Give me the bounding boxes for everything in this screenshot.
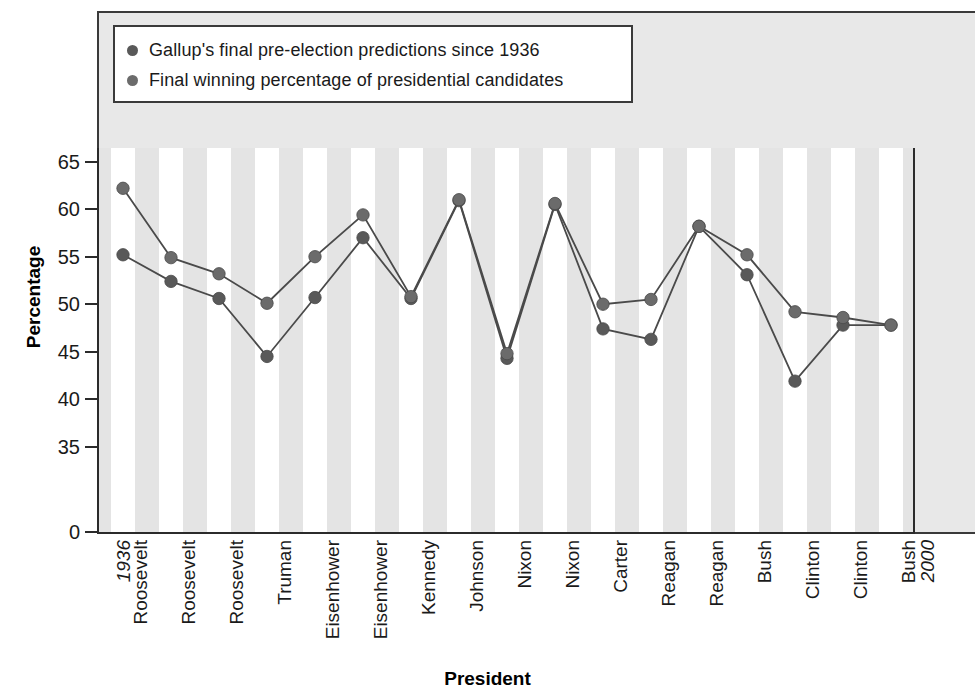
data-point-marker xyxy=(309,291,321,303)
x-axis-tick-label: Reagan xyxy=(706,540,728,607)
x-axis-tick-label: Nixon xyxy=(514,540,536,589)
y-axis-tick-label: 40 xyxy=(28,388,80,411)
data-point-marker xyxy=(501,347,513,359)
data-point-marker xyxy=(213,292,225,304)
legend-label-final-winning-percentage: Final winning percentage of presidential… xyxy=(149,70,563,91)
data-point-marker xyxy=(741,269,753,281)
y-axis-tick xyxy=(85,208,97,210)
data-point-marker xyxy=(789,375,801,387)
data-point-marker xyxy=(453,194,465,206)
x-axis-tick-label: Clinton xyxy=(802,540,824,599)
data-point-marker xyxy=(405,290,417,302)
data-point-marker xyxy=(549,197,561,209)
data-point-marker xyxy=(741,249,753,261)
y-axis-tick-label: 60 xyxy=(28,198,80,221)
x-axis-tick-label: Reagan xyxy=(658,540,680,607)
data-point-marker xyxy=(117,182,129,194)
x-axis-line xyxy=(97,532,915,534)
y-axis-tick xyxy=(85,351,97,353)
x-axis-tick-label: Bush xyxy=(754,540,776,583)
data-point-marker xyxy=(357,232,369,244)
data-point-marker xyxy=(261,297,273,309)
y-axis-tick-label: 0 xyxy=(28,521,80,544)
y-axis-tick xyxy=(85,256,97,258)
legend-item-final-winning-percentage: Final winning percentage of presidential… xyxy=(127,65,619,95)
x-axis-tick-label: Roosevelt xyxy=(226,540,248,625)
data-point-marker xyxy=(597,323,609,335)
data-point-marker xyxy=(165,251,177,263)
data-point-marker xyxy=(885,319,897,331)
data-point-marker xyxy=(309,251,321,263)
x-axis-tick-label: Roosevelt xyxy=(178,540,200,625)
x-axis-title: President xyxy=(0,668,975,690)
data-point-marker xyxy=(693,220,705,232)
data-point-marker xyxy=(645,293,657,305)
y-axis-tick xyxy=(85,531,97,533)
y-axis-tick-label: 65 xyxy=(28,150,80,173)
plot-series-svg xyxy=(99,148,915,532)
data-point-marker xyxy=(261,350,273,362)
data-point-marker xyxy=(597,298,609,310)
y-axis-tick xyxy=(85,398,97,400)
series-line-1 xyxy=(123,188,891,353)
x-axis-tick-label: Roosevelt xyxy=(130,540,152,625)
gallup-prediction-line-chart: Gallup's final pre-election predictions … xyxy=(0,0,975,697)
x-axis-tick-label: Carter xyxy=(610,540,632,593)
data-point-marker xyxy=(789,306,801,318)
plot-area xyxy=(99,148,915,532)
legend-item-gallup-predictions: Gallup's final pre-election predictions … xyxy=(127,35,619,65)
y-axis-tick-label: 35 xyxy=(28,435,80,458)
data-point-marker xyxy=(213,268,225,280)
data-point-marker xyxy=(117,249,129,261)
x-axis-labels: 1936RooseveltRooseveltRooseveltTrumanEis… xyxy=(99,540,915,660)
x-axis-tick-label: Truman xyxy=(274,540,296,605)
x-axis-tick-label: Eisenhower xyxy=(322,540,344,639)
chart-legend: Gallup's final pre-election predictions … xyxy=(113,25,633,103)
x-axis-tick-label: Nixon xyxy=(562,540,584,589)
y-axis-title: Percentage xyxy=(23,237,45,357)
x-axis-tick-label: Clinton xyxy=(850,540,872,599)
y-axis-tick xyxy=(85,161,97,163)
data-point-marker xyxy=(357,209,369,221)
x-axis-endpoint-label: 2000 xyxy=(917,540,939,582)
legend-marker-icon xyxy=(127,45,138,56)
x-axis-tick-label: Johnson xyxy=(466,540,488,612)
data-point-marker xyxy=(645,333,657,345)
data-point-marker xyxy=(165,275,177,287)
y-axis-line xyxy=(97,148,99,534)
legend-marker-icon xyxy=(127,75,138,86)
data-point-marker xyxy=(837,311,849,323)
x-axis-tick-label: Eisenhower xyxy=(370,540,392,639)
legend-label-gallup-predictions: Gallup's final pre-election predictions … xyxy=(149,40,540,61)
y-axis-tick xyxy=(85,303,97,305)
y-axis-tick xyxy=(85,446,97,448)
x-axis-tick-label: Kennedy xyxy=(418,540,440,615)
plot-right-border xyxy=(913,148,915,534)
